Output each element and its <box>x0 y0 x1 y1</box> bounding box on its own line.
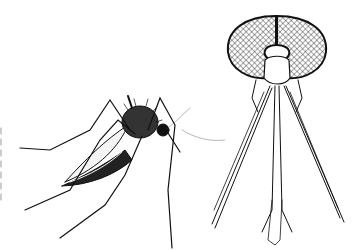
head <box>157 124 169 136</box>
antenna-left <box>212 86 272 228</box>
thorax <box>122 106 158 138</box>
mosquito-side-view <box>1 96 190 248</box>
proboscis <box>262 86 292 232</box>
palp-left <box>252 80 258 112</box>
head-capsule <box>264 56 290 84</box>
palp-right <box>296 80 302 112</box>
mosquito-head-front-view <box>182 16 344 245</box>
illustration <box>0 0 359 251</box>
leg <box>128 96 132 108</box>
